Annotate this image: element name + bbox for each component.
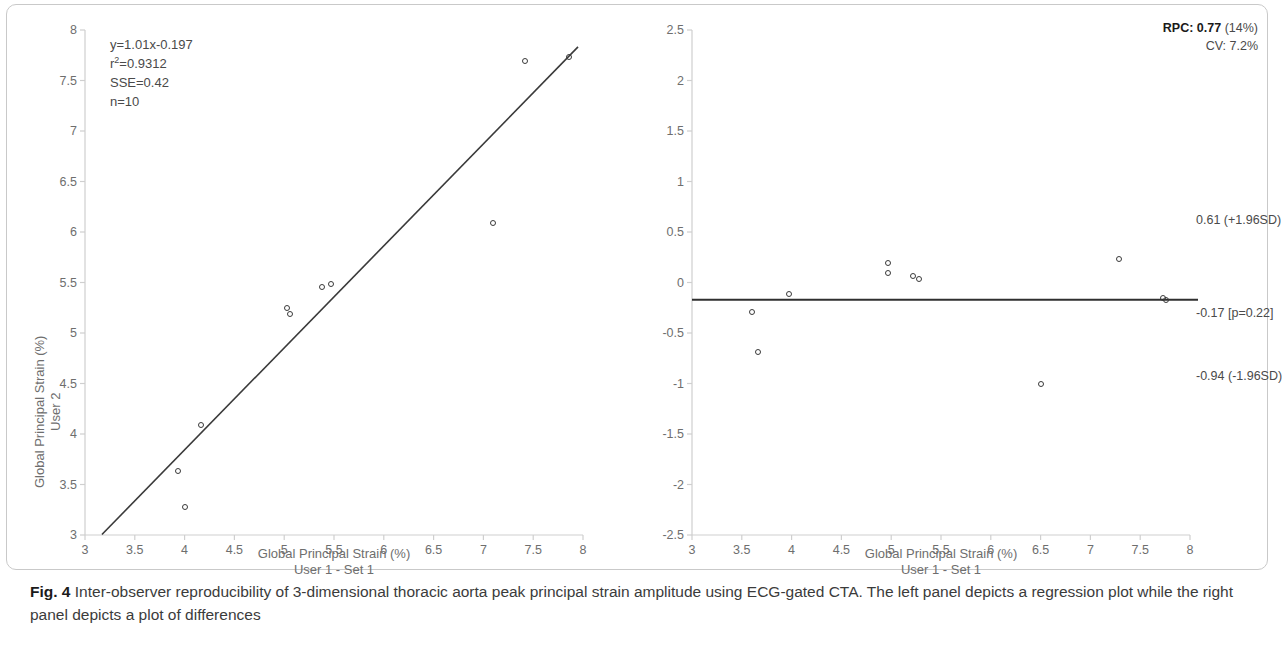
regression-x-tick-label: 7.5 <box>524 543 541 557</box>
regression-data-point <box>198 422 204 428</box>
difference-y-tick-label: -0.5 <box>644 326 684 340</box>
difference-x-tick-label: 5.5 <box>932 543 949 557</box>
difference-data-point <box>755 349 761 355</box>
regression-y-tick-label: 7.5 <box>37 74 77 88</box>
regression-x-tick-label: 6 <box>380 543 387 557</box>
regression-equation: y=1.01x-0.197 <box>110 36 193 54</box>
cv-line: CV: 7.2% <box>1163 38 1258 56</box>
regression-panel: y=1.01x-0.197 r2=0.9312 SSE=0.42 n=10 Gl… <box>10 8 630 564</box>
regression-data-point <box>328 281 334 287</box>
difference-x-tick-label: 6 <box>987 543 994 557</box>
sse-text: SSE=0.42 <box>110 74 193 92</box>
regression-data-point <box>284 305 290 311</box>
difference-y-tick-label: -1.5 <box>644 427 684 441</box>
figure-caption-text: Inter-observer reproducibility of 3-dime… <box>30 583 1233 623</box>
regression-x-tick-label: 6.5 <box>425 543 442 557</box>
regression-x-tick-label: 8 <box>580 543 587 557</box>
regression-data-point <box>319 284 325 290</box>
difference-panel: RPC: 0.77 (14%) CV: 7.2% 0.61 (+1.96SD) … <box>632 8 1264 564</box>
r-squared-text: r2=0.9312 <box>110 54 193 74</box>
difference-x-tick-label: 7.5 <box>1131 543 1148 557</box>
difference-plot-area <box>692 30 1190 535</box>
regression-y-tick-label: 6 <box>37 225 77 239</box>
regression-x-tick-label: 7 <box>480 543 487 557</box>
regression-fit-line <box>102 47 578 535</box>
difference-x-tick-label: 8 <box>1187 543 1194 557</box>
regression-y-tick-label: 4.5 <box>37 377 77 391</box>
regression-x-tick-label: 3.5 <box>126 543 143 557</box>
regression-y-tick-label: 5 <box>37 326 77 340</box>
difference-y-tick-label: 1 <box>644 175 684 189</box>
regression-x-tick-label: 5.5 <box>325 543 342 557</box>
difference-y-tick-label: -1 <box>644 377 684 391</box>
difference-x-tick-label: 6.5 <box>1032 543 1049 557</box>
figure-number: Fig. 4 <box>30 583 70 600</box>
difference-x-tick-label: 5 <box>888 543 895 557</box>
regression-y-tick-label: 3.5 <box>37 478 77 492</box>
difference-x-tick-label: 3 <box>689 543 696 557</box>
rpc-label: RPC: <box>1163 21 1194 35</box>
regression-y-tick-label: 4 <box>37 427 77 441</box>
regression-data-point <box>287 311 293 317</box>
difference-x-tick-label: 3.5 <box>733 543 750 557</box>
difference-data-point <box>786 291 792 297</box>
regression-x-tick-label: 4.5 <box>226 543 243 557</box>
difference-x-tick-label: 4.5 <box>833 543 850 557</box>
regression-data-point <box>175 468 181 474</box>
regression-x-tick-label: 5 <box>281 543 288 557</box>
regression-y-tick-label: 7 <box>37 124 77 138</box>
regression-x-tick-label: 3 <box>82 543 89 557</box>
difference-x-axis-title-line2: User 1 - Set 1 <box>692 562 1190 578</box>
regression-statistics-annotation: y=1.01x-0.197 r2=0.9312 SSE=0.42 n=10 <box>110 36 193 111</box>
upper-limit-of-agreement-label: 0.61 (+1.96SD) <box>1196 213 1281 227</box>
difference-y-tick-label: 2 <box>644 74 684 88</box>
bias-label: -0.17 [p=0.22] <box>1196 306 1274 320</box>
regression-x-axis-title-line2: User 1 - Set 1 <box>85 562 583 578</box>
difference-y-tick-label: 2.5 <box>644 23 684 37</box>
figure-caption: Fig. 4 Inter-observer reproducibility of… <box>30 580 1245 627</box>
r-squared-value: =0.9312 <box>119 57 166 72</box>
regression-x-tick-label: 4 <box>181 543 188 557</box>
difference-y-tick-label: 0.5 <box>644 225 684 239</box>
rpc-line: RPC: 0.77 (14%) <box>1163 20 1258 38</box>
rpc-percent: (14%) <box>1225 21 1258 35</box>
regression-y-tick-label: 3 <box>37 528 77 542</box>
regression-y-tick-label: 8 <box>37 23 77 37</box>
difference-plot-svg <box>692 30 1190 535</box>
lower-limit-of-agreement-label: -0.94 (-1.96SD) <box>1196 369 1282 383</box>
difference-y-tick-label: -2 <box>644 478 684 492</box>
rpc-cv-annotation: RPC: 0.77 (14%) CV: 7.2% <box>1163 20 1258 55</box>
difference-y-tick-label: 1.5 <box>644 124 684 138</box>
regression-data-point <box>182 504 188 510</box>
difference-x-tick-label: 7 <box>1087 543 1094 557</box>
rpc-value: 0.77 <box>1197 21 1221 35</box>
regression-y-axis-title-line1: Global Principal Strain (%) <box>32 336 48 488</box>
regression-y-tick-label: 6.5 <box>37 175 77 189</box>
difference-x-tick-label: 4 <box>788 543 795 557</box>
difference-y-tick-label: -2.5 <box>644 528 684 542</box>
difference-y-tick-label: 0 <box>644 276 684 290</box>
difference-data-point <box>749 309 755 315</box>
regression-y-axis-title-line2: User 2 <box>48 336 64 488</box>
regression-y-tick-label: 5.5 <box>37 276 77 290</box>
difference-data-point <box>1038 381 1044 387</box>
sample-size-text: n=10 <box>110 93 193 111</box>
regression-y-axis-title: Global Principal Strain (%) User 2 <box>32 336 65 488</box>
difference-data-point <box>1163 297 1169 303</box>
